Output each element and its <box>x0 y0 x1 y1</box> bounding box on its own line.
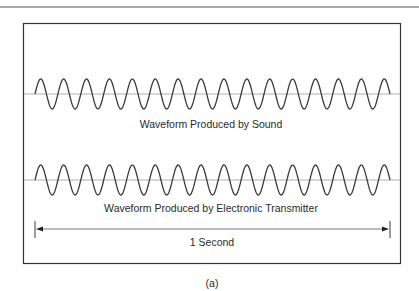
sound-waveform-label: Waveform Produced by Sound <box>140 118 283 130</box>
arrow-right-head-icon <box>382 227 389 232</box>
transmitter-waveform-label: Waveform Produced by Electronic Transmit… <box>104 202 318 214</box>
figure-frame <box>24 24 401 264</box>
duration-label: 1 Second <box>190 236 234 248</box>
figure-caption: (a) <box>206 277 219 289</box>
arrow-left-head-icon <box>36 227 43 232</box>
